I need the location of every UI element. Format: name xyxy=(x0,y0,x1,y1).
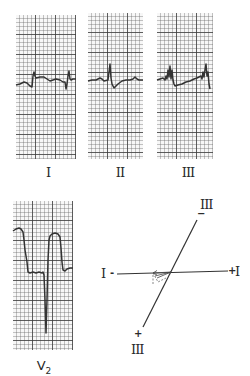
label-lead-iii: III xyxy=(176,166,200,179)
label-lead-v2-main: V xyxy=(37,358,46,373)
lead-i-negative-label: I xyxy=(101,267,105,280)
lead-i-axis-line xyxy=(117,271,228,274)
label-lead-v2-sub: 2 xyxy=(46,366,52,376)
lead-iii-negative-sign: − xyxy=(197,209,205,219)
lead-i-positive-label: I xyxy=(235,265,239,278)
trace-lead-i xyxy=(16,71,76,89)
lead-iii-positive-label: III xyxy=(131,343,143,356)
trace-lead-v2 xyxy=(13,228,73,333)
lead-i-negative-sign: - xyxy=(110,268,114,278)
trace-lead-iii xyxy=(157,64,210,89)
ecg-traces xyxy=(0,0,250,376)
trace-lead-ii xyxy=(88,64,143,88)
label-lead-i: I xyxy=(38,166,58,179)
lead-iii-positive-sign: + xyxy=(134,329,142,339)
label-lead-ii: II xyxy=(110,166,130,179)
label-lead-v2: V2 xyxy=(32,359,56,376)
